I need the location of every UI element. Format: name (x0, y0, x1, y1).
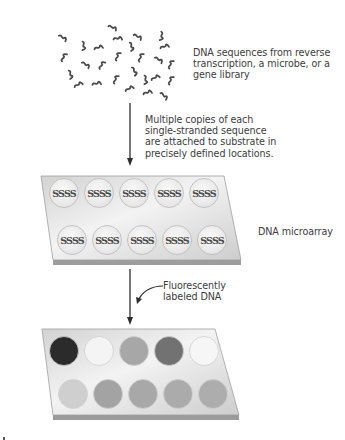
svg-text:SSSS: SSSS (130, 235, 155, 246)
source-label-line: DNA sequences from reverse (193, 47, 330, 58)
probe-spot: SSSS (155, 179, 184, 208)
fluorescent-label-line: labeled DNA (163, 291, 226, 302)
attach-step-label: Multiple copies of each single-stranded … (145, 114, 276, 159)
probe-spot: SSSS (128, 226, 157, 255)
probe-spot: SSSS (85, 179, 114, 208)
microarray-label-text: DNA microarray (258, 226, 333, 237)
probe-spot: SSSS (93, 226, 122, 255)
probe-spot: SSSS (198, 226, 227, 255)
fluorescent-spot (120, 337, 149, 366)
source-label-line: transcription, a microbe, or a (193, 58, 330, 69)
svg-text:SSSS: SSSS (52, 188, 77, 199)
fluorescent-label-line: Fluorescently (163, 280, 226, 291)
fluorescent-spot (199, 380, 228, 409)
svg-text:SSSS: SSSS (165, 235, 190, 246)
fluorescent-spot (59, 380, 88, 409)
fluorescent-dna-label: Fluorescently labeled DNA (163, 280, 226, 302)
probe-spot: SSSS (163, 226, 192, 255)
source-label: DNA sequences from reverse transcription… (193, 47, 330, 81)
fluorescent-spot (129, 380, 158, 409)
attach-label-line: are attached to substrate in (145, 136, 276, 147)
fluorescent-spot (164, 380, 193, 409)
probe-spot: SSSS (58, 226, 87, 255)
arrow-down-icon (127, 103, 133, 166)
fluorescent-spot (155, 337, 184, 366)
svg-text:SSSS: SSSS (157, 188, 182, 199)
probe-spot: SSSS (120, 179, 149, 208)
fluorescent-spot (190, 337, 219, 366)
probe-spot: SSSS (190, 179, 219, 208)
dna-fragment-icons (58, 25, 174, 99)
probe-spot: SSSS (50, 179, 79, 208)
microarray-label: DNA microarray (258, 226, 333, 237)
svg-text:SSSS: SSSS (122, 188, 147, 199)
attach-label-line: single-stranded sequence (145, 125, 276, 136)
curved-arrow-icon (136, 286, 163, 304)
attach-label-line: Multiple copies of each (145, 114, 276, 125)
attach-label-line: precisely defined locations. (145, 148, 276, 159)
svg-text:SSSS: SSSS (192, 188, 217, 199)
svg-text:SSSS: SSSS (87, 188, 112, 199)
fluorescent-spot (85, 337, 114, 366)
svg-text:SSSS: SSSS (60, 235, 85, 246)
svg-text:SSSS: SSSS (200, 235, 225, 246)
source-label-line: gene library (193, 69, 330, 80)
fluorescent-spot (50, 337, 79, 366)
svg-text:SSSS: SSSS (95, 235, 120, 246)
arrow-down-icon (127, 269, 133, 325)
fluorescent-spot (94, 380, 123, 409)
